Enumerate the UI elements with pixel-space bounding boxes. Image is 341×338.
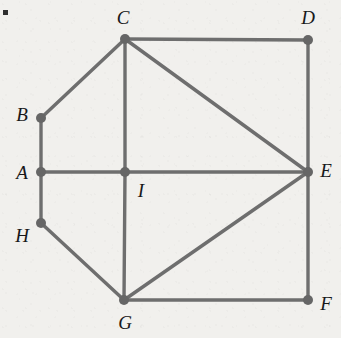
vertex-label-E: E	[320, 161, 332, 180]
edge-IG	[124, 172, 125, 300]
vertex-label-F: F	[320, 294, 332, 313]
vertex-label-I: I	[138, 181, 144, 200]
edge-GH	[41, 223, 124, 300]
edge-GE	[124, 172, 308, 300]
edge-CD	[125, 39, 308, 40]
edges-group	[41, 39, 308, 300]
edge-CE	[125, 39, 308, 172]
vertex-point-B	[36, 113, 46, 123]
vertex-label-G: G	[118, 313, 132, 332]
vertex-label-H: H	[15, 226, 29, 245]
vertex-point-A	[36, 167, 46, 177]
vertex-point-H	[36, 218, 46, 228]
vertex-label-C: C	[117, 8, 130, 27]
vertex-label-A: A	[16, 163, 28, 182]
diagram-canvas	[0, 0, 341, 338]
vertex-point-E	[303, 167, 313, 177]
vertex-label-B: B	[16, 105, 28, 124]
vertex-point-F	[303, 295, 313, 305]
vertex-point-C	[120, 34, 130, 44]
vertex-label-D: D	[301, 8, 315, 27]
edge-BC	[41, 39, 125, 118]
vertex-point-D	[303, 35, 313, 45]
vertex-point-G	[119, 295, 129, 305]
vertex-point-I	[120, 167, 130, 177]
geometric-figure: ABCDEFGHI	[0, 0, 341, 338]
